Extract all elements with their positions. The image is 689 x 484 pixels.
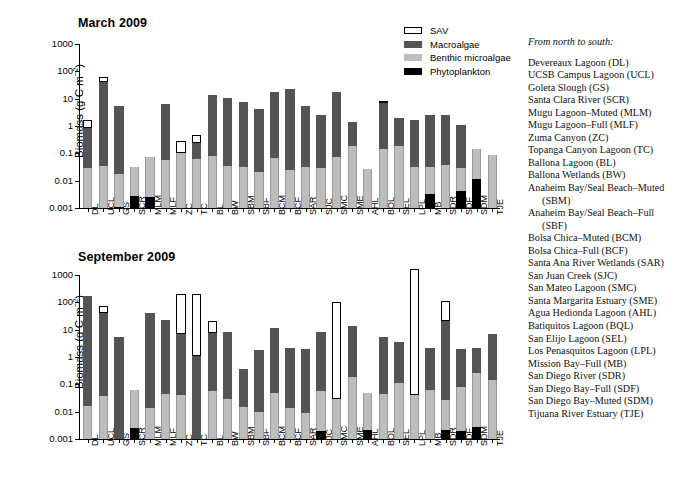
bar-TC — [192, 44, 201, 208]
x-axis-tick-label: TJE — [496, 430, 505, 446]
y-axis-tick — [75, 302, 80, 303]
bar-SJC — [316, 275, 325, 439]
x-axis-tick — [88, 439, 89, 443]
bar-SBM — [239, 275, 248, 439]
bar-segment-benthic-microalgae — [410, 167, 419, 209]
bar-segment-macroalgae — [114, 106, 123, 174]
x-axis-tick — [492, 439, 493, 443]
bar-segment-macroalgae — [99, 82, 108, 166]
legend-swatch-phytoplankton-icon — [404, 68, 422, 75]
bar-BCF — [285, 44, 294, 208]
bar-segment-macroalgae — [83, 296, 92, 406]
site-list-body: Devereaux Lagoon (DL)UCSB Campus Lagoon … — [528, 57, 686, 421]
x-axis-tick — [477, 439, 478, 443]
site-list-item: Santa Clara River (SCR) — [528, 94, 686, 107]
legend-label-macroalgae: Macroalgae — [430, 40, 480, 50]
x-axis-tick — [306, 439, 307, 443]
bar-segment-macroalgae — [348, 326, 357, 377]
legend-swatch-benthic-microalgae-icon — [404, 54, 422, 61]
x-axis-tick — [181, 208, 182, 212]
bar-segment-benthic-microalgae — [176, 153, 185, 208]
bar-segment-benthic-microalgae — [425, 390, 434, 439]
x-axis-tick — [321, 439, 322, 443]
bar-segment-benthic-microalgae — [441, 400, 450, 429]
bar-segment-sav — [410, 269, 419, 395]
legend-label-sav: SAV — [430, 26, 448, 36]
bar-segment-benthic-microalgae — [456, 387, 465, 430]
bar-segment-macroalgae — [348, 122, 357, 145]
bar-SME — [348, 44, 357, 208]
bar-segment-macroalgae — [99, 313, 108, 396]
bar-BCM — [270, 275, 279, 439]
site-list-item: UCSB Campus Lagoon (UCL) — [528, 69, 686, 82]
site-list-item: Los Penasquitos Lagoon (LPL) — [528, 345, 686, 358]
figure-root: March 2009 Biomass (g C m−2) 0.0010.010.… — [0, 0, 689, 484]
bar-SDF — [456, 275, 465, 439]
x-axis-tick — [337, 439, 338, 443]
bar-segment-benthic-microalgae — [379, 394, 388, 439]
site-list-item: Anaheim Bay/Seal Beach–Full — [528, 207, 686, 220]
y-axis-tick-label: 1000 — [52, 39, 73, 49]
legend-row-phytoplankton: Phytoplankton — [404, 65, 511, 79]
x-axis-tick — [430, 439, 431, 443]
y-axis-tick-label: 0.01 — [55, 176, 74, 186]
bar-segment-benthic-microalgae — [239, 407, 248, 439]
site-list-item: Mission Bay–Full (MB) — [528, 358, 686, 371]
x-axis-tick — [166, 208, 167, 212]
bar-SAR — [301, 44, 310, 208]
bar-segment-phytoplankton — [130, 196, 139, 208]
x-axis-tick — [150, 439, 151, 443]
y-axis-tick — [75, 384, 80, 385]
y-axis-tick-label: 0.001 — [49, 203, 73, 213]
bar-BW — [223, 44, 232, 208]
bar-segment-macroalgae — [192, 143, 201, 159]
bar-segment-phytoplankton — [456, 431, 465, 439]
bar-segment-sav — [192, 294, 201, 357]
bar-segment-benthic-microalgae — [425, 167, 434, 195]
bar-segment-macroalgae — [208, 95, 217, 157]
x-axis-tick — [368, 439, 369, 443]
y-axis-tick — [75, 412, 80, 413]
bar-LPL — [410, 275, 419, 439]
site-list-heading: From north to south: — [528, 36, 686, 49]
x-axis-tick — [290, 208, 291, 212]
x-axis-tick — [352, 208, 353, 212]
bar-BQL — [379, 275, 388, 439]
bar-segment-phytoplankton — [472, 179, 481, 208]
bar-segment-benthic-microalgae — [145, 408, 154, 439]
bar-segment-macroalgae — [316, 115, 325, 168]
bar-DL — [83, 44, 92, 208]
bar-segment-phytoplankton — [114, 207, 123, 208]
x-axis-tick-label: TJE — [496, 199, 505, 215]
site-list-item: San Mateo Lagoon (SMC) — [528, 282, 686, 295]
bar-segment-phytoplankton — [316, 431, 325, 439]
bar-segment-sav — [99, 77, 108, 82]
site-list-item: Anaheim Bay/Seal Beach–Muted — [528, 182, 686, 195]
bar-segment-benthic-microalgae — [363, 393, 372, 430]
bar-segment-macroalgae — [83, 128, 92, 168]
site-name-key: From north to south: Devereaux Lagoon (D… — [528, 36, 686, 420]
x-axis-tick — [197, 208, 198, 212]
bar-segment-benthic-microalgae — [348, 377, 357, 439]
x-axis-tick — [119, 208, 120, 212]
bar-segment-benthic-microalgae — [83, 406, 92, 439]
bar-SDR — [441, 275, 450, 439]
bar-segment-benthic-microalgae — [223, 166, 232, 208]
bar-segment-macroalgae — [394, 342, 403, 383]
bar-segment-macroalgae — [301, 106, 310, 167]
y-axis-tick — [75, 181, 80, 182]
x-axis-tick — [446, 439, 447, 443]
bar-segment-macroalgae — [488, 334, 497, 380]
y-axis-tick — [75, 208, 80, 209]
y-axis-tick — [75, 99, 80, 100]
bar-segment-benthic-microalgae — [394, 146, 403, 208]
site-list-item: Goleta Slough (GS) — [528, 82, 686, 95]
x-axis-tick — [197, 439, 198, 443]
panel-september-2009: September 2009 Biomass (g C m−2) 0.0010.… — [0, 242, 515, 484]
bar-GS — [114, 275, 123, 439]
bar-segment-benthic-microalgae — [301, 413, 310, 439]
bar-MLF — [161, 44, 170, 208]
x-axis-tick — [414, 208, 415, 212]
y-axis-tick — [75, 126, 80, 127]
y-axis-tick — [75, 330, 80, 331]
